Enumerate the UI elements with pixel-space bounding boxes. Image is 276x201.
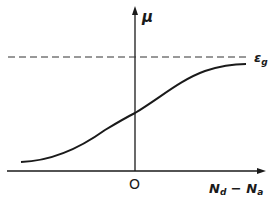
eg-label: εg (254, 50, 268, 67)
diagram-canvas: μ εg O Nd − Na (0, 0, 276, 201)
y-axis-arrow-icon (132, 6, 138, 15)
y-axis-label: μ (141, 8, 153, 26)
origin-label: O (129, 176, 140, 192)
mu-curve (21, 64, 246, 162)
x-axis-label: Nd − Na (209, 181, 263, 197)
x-axis-arrow-icon (257, 168, 266, 174)
